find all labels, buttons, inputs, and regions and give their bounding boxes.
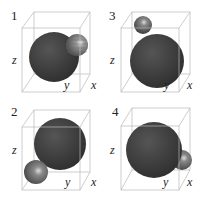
panel-label: 4: [112, 104, 119, 120]
x-axis-label: x: [91, 175, 96, 190]
panel-3: 3 z y x: [101, 0, 202, 100]
panel-1: 1 z y x: [0, 0, 101, 100]
panel-label: 3: [109, 8, 116, 24]
z-axis-label: z: [12, 143, 17, 158]
panel-2: 2 z y x: [0, 100, 101, 200]
z-axis-label: z: [110, 143, 115, 158]
panel-4: 4 z y x: [101, 100, 202, 200]
x-axis-label: x: [91, 78, 96, 93]
x-axis-label: x: [187, 78, 192, 93]
y-axis-label: y: [163, 175, 168, 190]
z-axis-label: z: [12, 53, 17, 68]
z-axis-label: z: [110, 53, 115, 68]
panel-label: 1: [11, 8, 18, 24]
y-axis-label: y: [64, 78, 69, 93]
y-axis-label: y: [164, 78, 169, 93]
x-axis-label: x: [187, 175, 192, 190]
panel-label: 2: [11, 104, 18, 120]
y-axis-label: y: [65, 175, 70, 190]
